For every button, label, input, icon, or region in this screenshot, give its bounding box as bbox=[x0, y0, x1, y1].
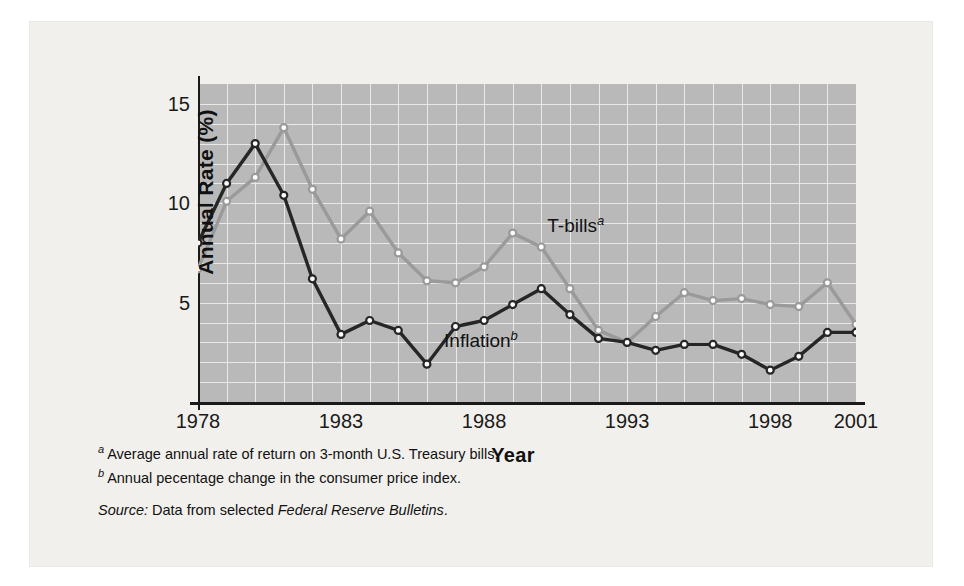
data-point-inflation bbox=[252, 140, 259, 147]
data-point-inflation bbox=[824, 329, 831, 336]
data-point-t-bills bbox=[252, 174, 259, 181]
data-point-t-bills bbox=[309, 186, 316, 193]
data-point-t-bills bbox=[538, 244, 545, 251]
series-label-tbills: T-billsa bbox=[547, 213, 604, 237]
source-middle: Data from selected bbox=[148, 502, 278, 518]
series-label-inflation-marker: b bbox=[511, 328, 518, 343]
data-point-inflation bbox=[223, 180, 230, 187]
data-point-t-bills bbox=[566, 285, 573, 292]
footnote-a-marker: a bbox=[98, 443, 104, 455]
figure-panel: 51015 197819831988199319982001 Annual Ra… bbox=[30, 22, 932, 566]
data-point-inflation bbox=[681, 341, 688, 348]
data-point-t-bills bbox=[481, 263, 488, 270]
data-point-inflation bbox=[710, 341, 717, 348]
x-tick-label: 1978 bbox=[176, 410, 221, 433]
data-point-t-bills bbox=[738, 295, 745, 302]
y-tick-label: 10 bbox=[162, 192, 190, 215]
x-tick-label: 1988 bbox=[462, 410, 507, 433]
data-point-t-bills bbox=[509, 230, 516, 237]
data-point-inflation bbox=[366, 317, 373, 324]
series-layer bbox=[198, 84, 856, 402]
y-tick-label: 5 bbox=[162, 291, 190, 314]
data-point-inflation bbox=[509, 301, 516, 308]
x-axis-line bbox=[190, 402, 865, 405]
data-point-inflation bbox=[767, 367, 774, 374]
series-label-inflation-text: Inflation bbox=[444, 331, 511, 352]
data-point-inflation bbox=[538, 285, 545, 292]
data-point-inflation bbox=[481, 317, 488, 324]
footnote-b-text: Annual pecentage change in the consumer … bbox=[107, 470, 461, 486]
series-line-inflation bbox=[198, 144, 856, 371]
footnote-a-text: Average annual rate of return on 3-month… bbox=[107, 446, 498, 462]
data-point-t-bills bbox=[681, 289, 688, 296]
data-point-inflation bbox=[309, 275, 316, 282]
footnote-b-marker: b bbox=[98, 467, 104, 479]
data-point-inflation bbox=[280, 192, 287, 199]
series-label-tbills-text: T-bills bbox=[547, 215, 597, 236]
plot-wrapper: 51015 197819831988199319982001 Annual Ra… bbox=[168, 62, 858, 407]
data-point-t-bills bbox=[853, 321, 857, 328]
data-point-t-bills bbox=[652, 313, 659, 320]
data-point-inflation bbox=[338, 331, 345, 338]
data-point-inflation bbox=[795, 353, 802, 360]
data-point-inflation bbox=[624, 339, 631, 346]
data-point-t-bills bbox=[595, 327, 602, 334]
data-point-t-bills bbox=[280, 124, 287, 131]
source-publication: Federal Reserve Bulletins bbox=[278, 502, 444, 518]
data-point-t-bills bbox=[767, 301, 774, 308]
source-suffix: . bbox=[444, 502, 448, 518]
data-point-t-bills bbox=[795, 303, 802, 310]
data-point-inflation bbox=[423, 361, 430, 368]
x-tick-label: 1998 bbox=[748, 410, 793, 433]
data-point-inflation bbox=[738, 351, 745, 358]
series-label-inflation: Inflationb bbox=[444, 328, 518, 352]
source-note: Source: Data from selected Federal Reser… bbox=[98, 502, 888, 518]
data-point-t-bills bbox=[452, 279, 459, 286]
data-point-inflation bbox=[652, 347, 659, 354]
data-point-t-bills bbox=[338, 236, 345, 243]
data-point-t-bills bbox=[710, 297, 717, 304]
series-label-tbills-marker: a bbox=[597, 213, 604, 228]
data-point-inflation bbox=[595, 335, 602, 342]
footnote-b: bAnnual pecentage change in the consumer… bbox=[98, 464, 888, 488]
x-tick-label: 1993 bbox=[605, 410, 650, 433]
x-tick-label: 1983 bbox=[319, 410, 364, 433]
footnotes: aAverage annual rate of return on 3-mont… bbox=[98, 440, 888, 518]
data-point-t-bills bbox=[223, 198, 230, 205]
x-tick-label: 2001 bbox=[834, 410, 879, 433]
data-point-inflation bbox=[395, 327, 402, 334]
data-point-t-bills bbox=[366, 208, 373, 215]
source-prefix: Source: bbox=[98, 502, 148, 518]
data-point-inflation bbox=[853, 329, 857, 336]
data-point-t-bills bbox=[395, 249, 402, 256]
footnote-a: aAverage annual rate of return on 3-mont… bbox=[98, 440, 888, 464]
data-point-inflation bbox=[566, 311, 573, 318]
y-axis-title: Annual Rate (%) bbox=[194, 82, 218, 302]
y-tick-label: 15 bbox=[162, 92, 190, 115]
data-point-t-bills bbox=[423, 277, 430, 284]
data-point-t-bills bbox=[824, 279, 831, 286]
